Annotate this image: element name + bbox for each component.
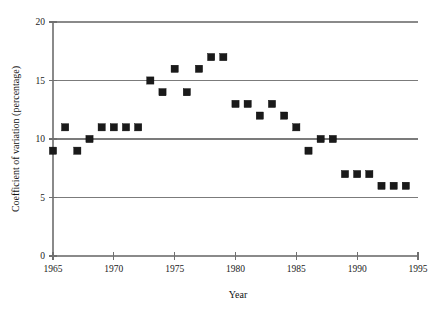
x-tick-label-1985: 1985 [287,264,306,274]
data-point-1974 [159,89,166,96]
scatter-chart: 05101520 1965197019751980198519901995 Ye… [0,0,445,309]
data-point-1986 [305,147,312,154]
data-point-1977 [195,65,202,72]
data-point-1984 [281,112,288,119]
x-tick-label-1975: 1975 [165,264,184,274]
x-tick-label-1965: 1965 [44,264,63,274]
data-markers-layer [49,54,409,190]
y-tick-labels: 05101520 [36,17,46,261]
x-tick-label-1970: 1970 [104,264,123,274]
data-point-1990 [354,171,361,178]
data-point-1970 [110,124,117,131]
data-point-1979 [220,54,227,61]
data-point-1967 [74,147,81,154]
y-tick-label-5: 5 [40,193,45,203]
data-point-1969 [98,124,105,131]
data-point-1985 [293,124,300,131]
data-point-1966 [62,124,69,131]
data-point-1968 [86,135,93,142]
data-point-1981 [244,100,251,107]
data-point-1971 [122,124,129,131]
data-point-1989 [341,171,348,178]
data-point-1991 [366,171,373,178]
data-point-1980 [232,100,239,107]
data-point-1987 [317,135,324,142]
y-tick-label-20: 20 [36,17,46,27]
data-point-1975 [171,65,178,72]
x-tick-labels: 1965197019751980198519901995 [44,264,428,274]
data-point-1978 [208,54,215,61]
data-point-1973 [147,77,154,84]
data-point-1965 [49,147,56,154]
data-point-1972 [135,124,142,131]
x-axis-title: Year [229,289,248,300]
y-axis-title: Coefficient of variation (percentage) [10,66,22,212]
data-point-1992 [378,182,385,189]
chart-canvas: 05101520 1965197019751980198519901995 Ye… [0,0,445,309]
gridlines-layer [53,22,418,198]
x-tick-label-1990: 1990 [348,264,367,274]
data-point-1976 [183,89,190,96]
data-point-1982 [256,112,263,119]
data-point-1988 [329,135,336,142]
data-point-1994 [402,182,409,189]
y-tick-label-0: 0 [40,251,45,261]
data-point-1993 [390,182,397,189]
x-tick-label-1995: 1995 [409,264,428,274]
x-tick-label-1980: 1980 [226,264,245,274]
y-tick-label-10: 10 [36,134,46,144]
y-tick-label-15: 15 [36,76,46,86]
data-point-1983 [268,100,275,107]
